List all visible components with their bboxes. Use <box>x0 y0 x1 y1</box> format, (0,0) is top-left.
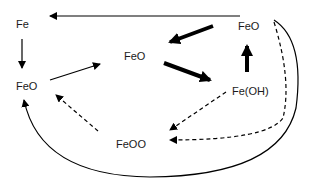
node-feoo: FeOO <box>116 138 146 150</box>
arrow-feoh-to-feoo <box>170 92 226 130</box>
arrow-feoo-to-feo-left <box>56 95 98 131</box>
arrow-feo-top-to-feoo-dashed <box>170 22 286 140</box>
node-feoh: Fe(OH) <box>232 85 269 97</box>
node-feo-top-right: FeO <box>238 20 259 32</box>
arrow-feo-center-to-feoh <box>164 63 210 80</box>
arrow-feo-top-to-feo-center <box>170 26 213 42</box>
node-fe: Fe <box>16 18 29 30</box>
node-feo-left: FeO <box>16 80 37 92</box>
node-feo-center: FeO <box>124 50 145 62</box>
arrow-feo-top-to-feo-left-curve <box>24 20 298 177</box>
arrow-feo-left-to-feo-center <box>50 64 100 80</box>
